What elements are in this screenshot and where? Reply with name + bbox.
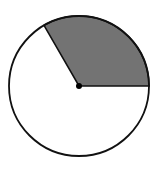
circle-diagram (0, 0, 162, 169)
center-dot (76, 83, 82, 89)
diagram-canvas (0, 0, 162, 169)
